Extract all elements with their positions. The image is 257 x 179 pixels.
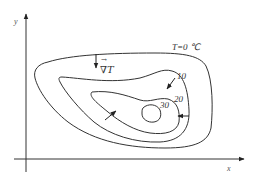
isotherm-10 bbox=[59, 70, 189, 142]
gradient-arrow-left bbox=[105, 111, 116, 120]
gradient-vector-arrow: → bbox=[101, 56, 107, 64]
gradient-symbol: ∇T bbox=[100, 64, 115, 75]
axes: y x bbox=[13, 14, 244, 173]
isotherm-label-0: T=0 ℃ bbox=[172, 42, 201, 52]
isotherm-label-10: 10 bbox=[177, 71, 187, 81]
isotherm-label-30: 30 bbox=[159, 100, 170, 110]
isotherm-30 bbox=[142, 105, 161, 122]
gradient-arrow-10 bbox=[167, 78, 175, 89]
isotherm-label-20: 20 bbox=[174, 94, 184, 104]
gradient-label: → ∇T bbox=[100, 56, 115, 75]
isotherm-20 bbox=[91, 92, 179, 134]
isotherm-0 bbox=[35, 53, 213, 148]
isotherm-diagram: y x → ∇T T=0 ℃ 10 20 30 bbox=[0, 0, 257, 179]
x-axis-label: x bbox=[226, 164, 231, 173]
y-axis-label: y bbox=[13, 17, 18, 26]
